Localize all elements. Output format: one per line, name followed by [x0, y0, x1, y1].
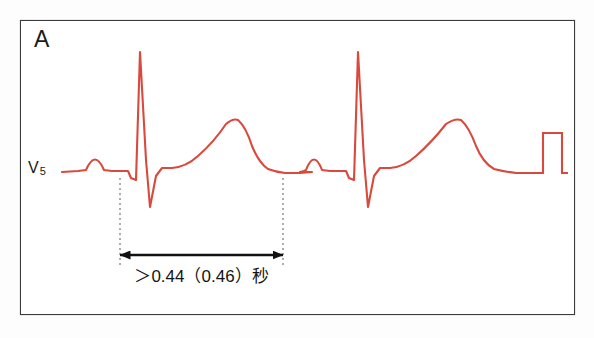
- ecg-trace: [62, 52, 532, 207]
- qt-interval-caption: ＞0.44（0.46）秒: [40, 268, 363, 287]
- ecg-waveform-canvas: [0, 0, 594, 338]
- calibration-pulse: [532, 133, 568, 173]
- ecg-figure-panel: A V5 ＞0.44（0.46）秒: [0, 0, 594, 338]
